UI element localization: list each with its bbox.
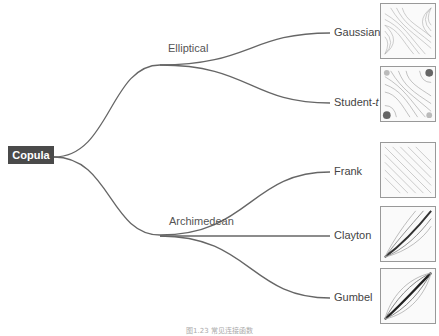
edge-archimedean-gumbel [160, 236, 330, 298]
gaussian-contour-icon [380, 3, 436, 59]
leaf-student-t: Student-t [334, 96, 379, 108]
root-label: Copula [12, 149, 49, 161]
root-node: Copula [8, 146, 54, 164]
leaf-gaussian: Gaussian [334, 26, 380, 38]
leaf-gumbel: Gumbel [334, 291, 373, 303]
frank-contour-icon [380, 142, 436, 198]
leaf-student-t-italic: t [376, 96, 379, 108]
leaf-student-t-text: Student- [334, 96, 376, 108]
clayton-contour-icon [380, 206, 436, 262]
edge-root-archimedean [54, 157, 160, 235]
figure-caption: 图1.23 常见连接函数 [0, 325, 439, 335]
leaf-clayton: Clayton [334, 229, 371, 241]
student-t-contour-icon [380, 66, 436, 122]
gumbel-contour-icon [380, 268, 436, 324]
family-label-archimedean: Archimedean [169, 215, 234, 227]
family-label-elliptical: Elliptical [168, 42, 208, 54]
tree-connectors [0, 0, 439, 336]
edge-root-elliptical [54, 65, 160, 157]
leaf-frank: Frank [334, 165, 362, 177]
edge-elliptical-student [160, 65, 330, 103]
